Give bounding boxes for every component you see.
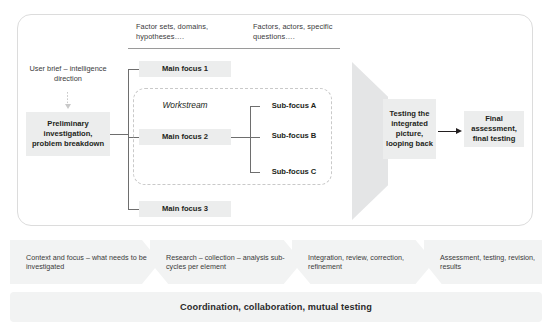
connector-sub-spine: [250, 106, 251, 172]
connector-to-sub-a: [250, 106, 260, 107]
connector-to-sub-c: [250, 172, 260, 173]
arrow-down-icon: [67, 92, 68, 109]
header-label-factors-actors: Factors, actors, specific questions….: [253, 22, 353, 41]
connector-main-spine: [128, 69, 129, 209]
diagram-canvas: Factor sets, domains, hypotheses…. Facto…: [0, 0, 552, 329]
preliminary-investigation-node: Preliminary investigation, problem break…: [26, 112, 110, 156]
coordination-label: Coordination, collaboration, mutual test…: [180, 302, 372, 312]
sub-focus-a-node[interactable]: Sub-focus A: [260, 99, 328, 113]
connector-to-main-3: [128, 209, 139, 210]
main-focus-2-node[interactable]: Main focus 2: [139, 129, 231, 145]
phase-label-3: Integration, review, correction, refinem…: [292, 253, 434, 272]
phase-chevron-2: Research – collection – analysis sub-cyc…: [150, 240, 302, 284]
header-label-factor-sets: Factor sets, domains, hypotheses….: [136, 22, 241, 41]
phase-chevron-1: Context and focus – what needs to be inv…: [10, 240, 160, 284]
phase-band: Context and focus – what needs to be inv…: [10, 240, 542, 284]
coordination-band: Coordination, collaboration, mutual test…: [10, 292, 542, 322]
sub-focus-b-node[interactable]: Sub-focus B: [260, 129, 328, 143]
integrated-testing-node: Testing the integrated picture, looping …: [383, 99, 436, 159]
phase-chevron-4: Assessment, testing, revision, results: [424, 240, 542, 284]
connector-to-main-1: [128, 69, 139, 70]
workstream-label: Workstream: [146, 100, 224, 112]
phase-label-1: Context and focus – what needs to be inv…: [10, 253, 160, 272]
phase-chevron-3: Integration, review, correction, refinem…: [292, 240, 434, 284]
arrow-right-icon: [438, 128, 462, 135]
connector-main2-stem: [231, 137, 250, 138]
phase-label-2: Research – collection – analysis sub-cyc…: [150, 253, 302, 272]
main-focus-3-node[interactable]: Main focus 3: [139, 201, 231, 217]
final-assessment-node: Final assessment, final testing: [464, 111, 524, 147]
connector-prelim-stem: [110, 134, 128, 135]
main-focus-1-node[interactable]: Main focus 1: [139, 61, 231, 77]
connector-to-sub-b: [250, 137, 260, 138]
phase-label-4: Assessment, testing, revision, results: [424, 253, 542, 272]
user-brief-label: User brief – intelligence direction: [26, 58, 110, 90]
sub-focus-c-node[interactable]: Sub-focus C: [260, 165, 328, 179]
header-divider: [128, 48, 340, 49]
